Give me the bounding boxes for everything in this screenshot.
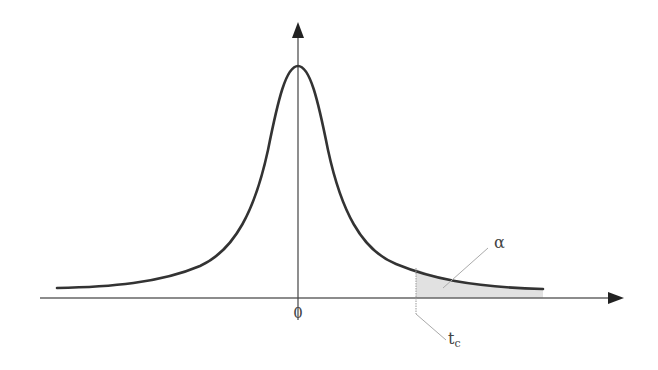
tc-leader-line (416, 314, 446, 340)
alpha-label: α (494, 233, 505, 252)
x-axis-arrow-icon (608, 292, 624, 304)
tc-label-sub: c (454, 337, 460, 350)
tc-label: tc (448, 329, 461, 350)
y-axis-arrow-icon (292, 22, 304, 38)
origin-label: 0 (293, 304, 303, 322)
t-distribution-diagram: 0 α tc (0, 0, 658, 370)
density-curve (57, 66, 543, 289)
